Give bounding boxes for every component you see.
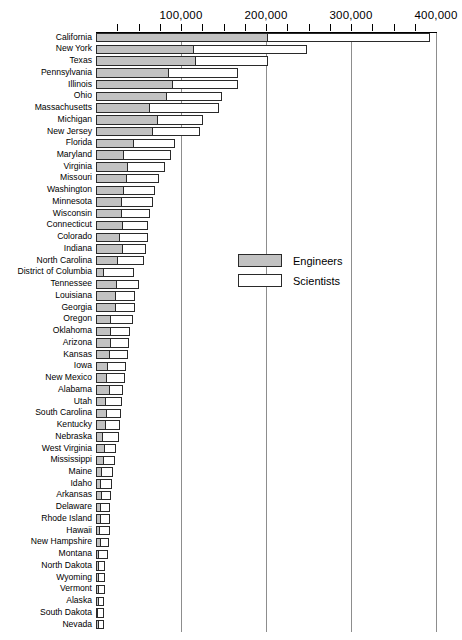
bar-row: [96, 385, 123, 394]
category-label: Idaho: [2, 479, 92, 488]
bar-row: [96, 444, 116, 453]
category-label: South Carolina: [2, 408, 92, 417]
bar-segment-engineers: [96, 385, 110, 394]
axis-tick: [394, 24, 395, 31]
category-label: West Virginia: [2, 444, 92, 453]
category-label: Oregon: [2, 314, 92, 323]
bar-segment-engineers: [96, 162, 128, 171]
bar-row: [96, 479, 112, 488]
axis-tick: [181, 24, 182, 31]
bar-row: [96, 80, 238, 89]
bar-segment-scientists: [105, 420, 120, 429]
bar-row: [96, 327, 130, 336]
bar-segment-scientists: [193, 45, 307, 54]
bar-row: [96, 362, 126, 371]
axis-tick: [202, 24, 203, 31]
legend-label-engineers: Engineers: [293, 255, 343, 267]
category-label: Nevada: [2, 620, 92, 629]
category-label: Wisconsin: [2, 209, 92, 218]
category-label: Kansas: [2, 350, 92, 359]
bar-segment-scientists: [110, 327, 130, 336]
bar-row: [96, 467, 113, 476]
bar-row: [96, 233, 148, 242]
category-label: Virginia: [2, 162, 92, 171]
x-axis-tick-label: 200,000: [245, 9, 288, 21]
category-label: Texas: [2, 56, 92, 65]
category-label: Missouri: [2, 173, 92, 182]
bar-row: [96, 92, 222, 101]
category-label: Arizona: [2, 338, 92, 347]
axis-tick: [287, 24, 288, 31]
bar-segment-engineers: [96, 68, 169, 77]
category-label: Delaware: [2, 502, 92, 511]
bar-segment-scientists: [98, 585, 106, 594]
bar-segment-scientists: [123, 186, 155, 195]
bar-segment-scientists: [103, 456, 115, 465]
bar-segment-engineers: [96, 233, 120, 242]
bar-segment-scientists: [117, 256, 144, 265]
bar-segment-engineers: [96, 115, 158, 124]
bar-segment-engineers: [96, 33, 268, 42]
bar-row: [96, 162, 165, 171]
bar-segment-scientists: [101, 491, 111, 500]
category-label: Minnesota: [2, 197, 92, 206]
category-label: Louisiana: [2, 291, 92, 300]
category-label: Rhode Island: [2, 514, 92, 523]
bar-row: [96, 620, 104, 629]
bar-segment-scientists: [121, 209, 149, 218]
axis-tick: [309, 24, 310, 31]
bar-segment-engineers: [96, 303, 116, 312]
bar-segment-scientists: [100, 479, 112, 488]
bar-row: [96, 221, 148, 230]
legend-label-scientists: Scientists: [293, 275, 340, 287]
bar-segment-scientists: [122, 244, 146, 253]
x-axis-tick-label: 400,000: [415, 9, 458, 21]
bar-segment-engineers: [96, 256, 118, 265]
bar-row: [96, 597, 104, 606]
axis-tick: [330, 24, 331, 31]
bar-row: [96, 244, 146, 253]
axis-tick: [351, 24, 352, 31]
bar-row: [96, 197, 153, 206]
bar-row: [96, 291, 135, 300]
bar-segment-scientists: [101, 467, 113, 476]
bar-row: [96, 585, 105, 594]
bar-row: [96, 174, 159, 183]
bar-segment-scientists: [121, 197, 153, 206]
bar-row: [96, 503, 110, 512]
bar-row: [96, 350, 128, 359]
category-label: North Dakota: [2, 561, 92, 570]
bar-row: [96, 456, 115, 465]
x-axis-tick-label: 300,000: [330, 9, 373, 21]
category-label: New Mexico: [2, 373, 92, 382]
bar-segment-scientists: [100, 538, 109, 547]
bar-row: [96, 432, 119, 441]
bar-segment-scientists: [103, 268, 135, 277]
category-label: North Carolina: [2, 256, 92, 265]
bar-segment-engineers: [96, 139, 134, 148]
axis-tick: [245, 24, 246, 31]
category-label: Hawaii: [2, 526, 92, 535]
bar-row: [96, 256, 144, 265]
bar-segment-engineers: [96, 56, 196, 65]
bar-segment-engineers: [96, 80, 173, 89]
bar-segment-engineers: [96, 338, 111, 347]
legend-swatch-engineers-icon: [238, 254, 282, 267]
category-label: Florida: [2, 138, 92, 147]
category-label: Oklahoma: [2, 326, 92, 335]
bar-segment-scientists: [122, 221, 148, 230]
bar-segment-engineers: [96, 244, 123, 253]
bar-row: [96, 139, 175, 148]
axis-tick: [160, 24, 161, 31]
bar-segment-scientists: [116, 280, 138, 289]
axis-tick: [117, 24, 118, 31]
category-label: Montana: [2, 549, 92, 558]
bar-row: [96, 127, 200, 136]
gridline: [351, 33, 352, 632]
category-label: Kentucky: [2, 420, 92, 429]
category-label: New Hampshire: [2, 537, 92, 546]
bar-segment-scientists: [166, 92, 222, 101]
bar-segment-engineers: [96, 291, 116, 300]
category-label: Vermont: [2, 584, 92, 593]
category-label: Georgia: [2, 303, 92, 312]
